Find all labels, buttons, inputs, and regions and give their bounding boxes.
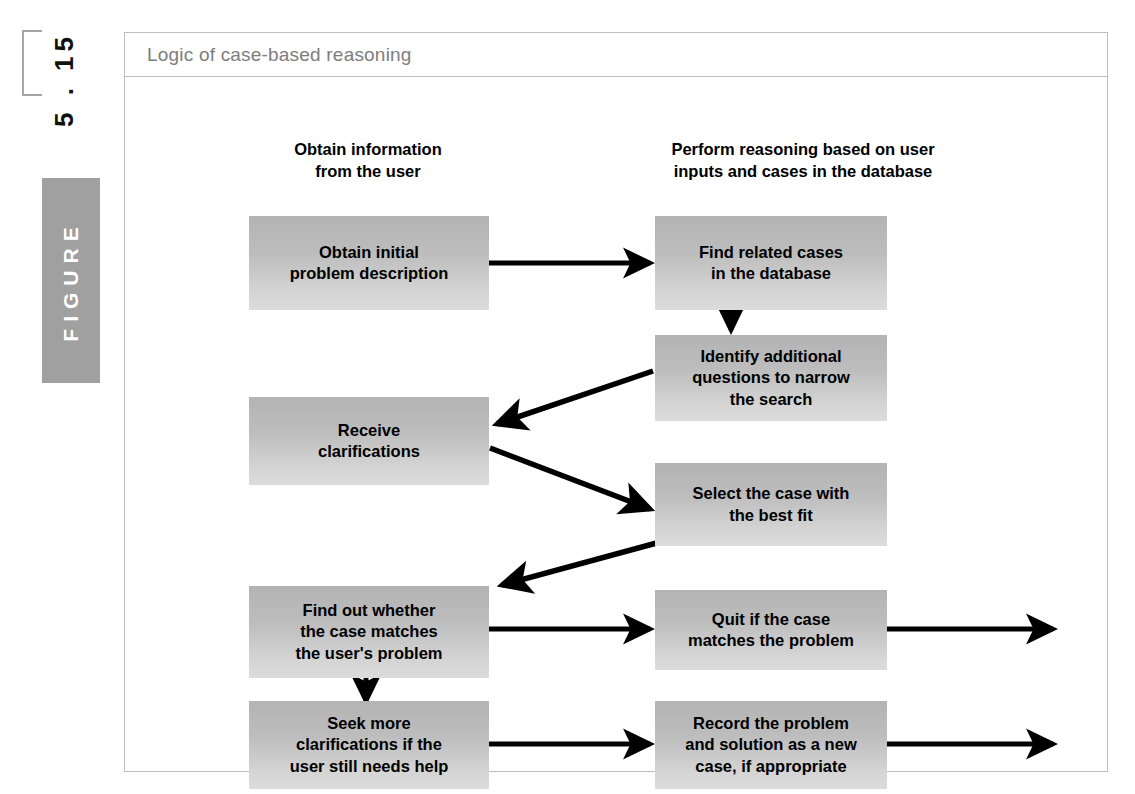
node-receive-clarifications[interactable]: Receiveclarifications [249, 397, 489, 485]
figure-number-text: 5 . 15 [50, 31, 81, 126]
node-record-the-problem[interactable]: Record the problemand solution as a newc… [655, 701, 887, 789]
figure-word-text: FIGURE [59, 220, 83, 341]
node-obtain-initial-problem-description[interactable]: Obtain initialproblem description [249, 216, 489, 310]
column-header-right: Perform reasoning based on userinputs an… [603, 139, 1003, 183]
node-identify-additional-questions[interactable]: Identify additionalquestions to narrowth… [655, 335, 887, 421]
node-quit-if-case-matches[interactable]: Quit if the casematches the problem [655, 590, 887, 670]
figure-word-box: FIGURE [42, 178, 100, 383]
node-find-out-whether-case-matches[interactable]: Find out whetherthe case matchesthe user… [249, 586, 489, 678]
figure-bracket [22, 30, 42, 96]
edge-n5-n6 [502, 538, 675, 585]
page-title: Logic of case-based reasoning [125, 44, 412, 66]
diagram-canvas: Obtain informationfrom the user Perform … [125, 77, 1107, 771]
node-select-the-case-with-the-best-fit[interactable]: Select the case withthe best fit [655, 463, 887, 546]
edge-n4-n5 [490, 448, 650, 509]
figure-page: 5 . 15 FIGURE Logic of case-based reason… [0, 0, 1135, 794]
figure-header: Logic of case-based reasoning [125, 33, 1107, 77]
figure-frame: Logic of case-based reasoning Obtain inf… [124, 32, 1108, 772]
node-find-related-cases[interactable]: Find related casesin the database [655, 216, 887, 310]
column-header-left: Obtain informationfrom the user [243, 139, 493, 183]
edge-n3-n4 [497, 371, 653, 424]
figure-number: 5 . 15 [44, 24, 86, 134]
node-seek-more-clarifications[interactable]: Seek moreclarifications if theuser still… [249, 701, 489, 789]
